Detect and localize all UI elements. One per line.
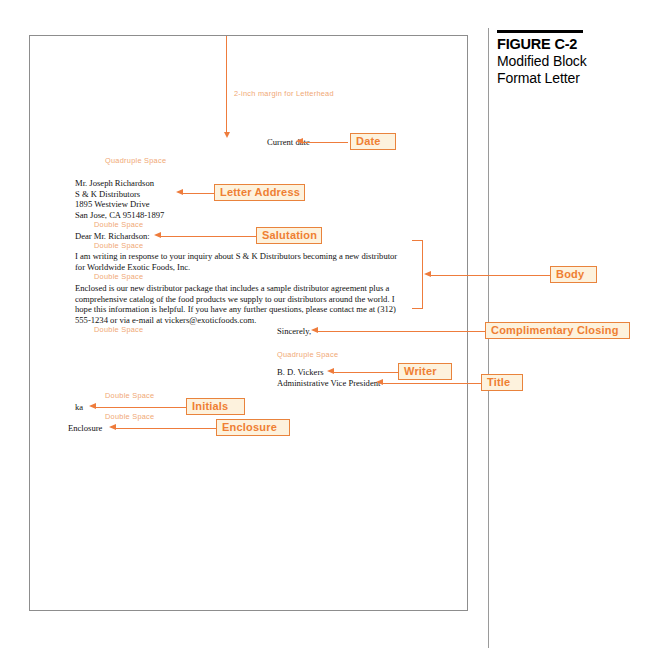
initials-arrowhead: [89, 403, 96, 409]
callout-body[interactable]: Body: [550, 266, 597, 283]
complimentary-closing-line: Sincerely,: [277, 326, 311, 337]
spacing-note-double-1: Double Space: [94, 220, 143, 229]
margin-note: 2-inch margin for Letterhead: [234, 89, 334, 98]
complimentary-closing-connector-line: [317, 331, 485, 332]
spacing-note-double-6: Double Space: [105, 412, 154, 421]
date-arrowhead: [296, 138, 303, 144]
caption-top-rule: [497, 30, 583, 33]
title-connector-line: [382, 383, 481, 384]
callout-complimentary-closing[interactable]: Complimentary Closing: [485, 322, 630, 339]
callout-title[interactable]: Title: [481, 374, 523, 391]
letter-address-line-1: Mr. Joseph Richardson: [75, 178, 154, 189]
body-paragraph-1-line-1: I am writing in response to your inquiry…: [75, 251, 397, 262]
spacing-note-double-3: Double Space: [94, 272, 143, 281]
enclosure-arrowhead: [109, 424, 116, 430]
body-connector-line: [430, 275, 550, 276]
figure-number: FIGURE C-2: [497, 36, 647, 53]
top-margin-arrowhead: [224, 132, 230, 138]
enclosure-connector-line: [115, 428, 216, 429]
body-paragraph-2-line-3: hope this information is helpful. If you…: [75, 304, 396, 315]
spacing-note-double-4: Double Space: [94, 325, 143, 334]
writer-title-line: Administrative Vice President: [277, 378, 380, 389]
title-arrowhead: [376, 379, 383, 385]
figure-title-line-2: Format Letter: [497, 70, 647, 87]
body-bracket: [412, 240, 423, 309]
callout-writer[interactable]: Writer: [398, 363, 452, 380]
salutation-connector-line: [160, 236, 256, 237]
writer-name-line: B. D. Vickers: [277, 367, 324, 378]
top-margin-arrow-shaft: [226, 36, 227, 136]
enclosure-line: Enclosure: [68, 423, 102, 434]
spacing-note-double-2: Double Space: [94, 241, 143, 250]
callout-date[interactable]: Date: [350, 133, 396, 150]
callout-salutation[interactable]: Salutation: [256, 227, 322, 244]
complimentary-closing-arrowhead: [311, 327, 318, 333]
salutation-arrowhead: [154, 232, 161, 238]
spacing-note-quadruple-1: Quadruple Space: [105, 156, 166, 165]
body-arrowhead: [424, 271, 431, 277]
callout-enclosure[interactable]: Enclosure: [216, 419, 290, 436]
callout-initials[interactable]: Initials: [186, 398, 245, 415]
spacing-note-double-5: Double Space: [105, 391, 154, 400]
callout-letter-address[interactable]: Letter Address: [214, 184, 305, 201]
figure-title-line-1: Modified Block: [497, 53, 647, 70]
figure-caption: FIGURE C-2 Modified Block Format Letter: [497, 30, 647, 86]
salutation-line: Dear Mr. Richardson:: [75, 231, 150, 242]
initials-connector-line: [95, 407, 186, 408]
letter-address-arrowhead: [176, 189, 183, 195]
writer-arrowhead: [327, 368, 334, 374]
writer-connector-line: [333, 372, 398, 373]
date-connector-line: [302, 142, 348, 143]
spacing-note-quadruple-2: Quadruple Space: [277, 350, 338, 359]
figure-page: FIGURE C-2 Modified Block Format Letter …: [0, 0, 651, 648]
body-paragraph-2-line-2: comprehensive catalog of the food produc…: [75, 294, 395, 305]
body-paragraph-1-line-2: for Worldwide Exotic Foods, Inc.: [75, 262, 190, 273]
body-paragraph-2-line-1: Enclosed is our new distributor package …: [75, 283, 389, 294]
letter-address-line-2: S & K Distributors: [75, 189, 140, 200]
letter-address-connector-line: [182, 193, 214, 194]
letter-address-line-3: 1895 Westview Drive: [75, 199, 150, 210]
body-paragraph-2-line-4: 555-1234 or via e-mail at vickers@exotic…: [75, 315, 256, 326]
initials-line: ka: [75, 402, 83, 413]
letter-address-line-4: San Jose, CA 95148-1897: [75, 210, 164, 221]
